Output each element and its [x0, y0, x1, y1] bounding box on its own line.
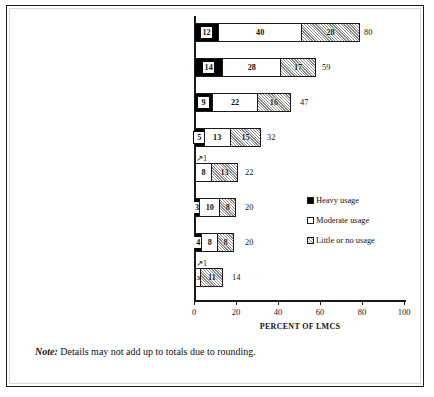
callout-annotation: ↗1: [196, 259, 207, 268]
bar-segment-moderate: 28: [222, 58, 281, 77]
bar-segment-little: 15: [230, 128, 262, 147]
bar-segment-moderate: 8: [195, 163, 212, 182]
segment-value-moderate: 22: [231, 98, 239, 107]
x-axis-tick-label: 80: [358, 307, 367, 317]
stacked-bar: 3 11: [194, 268, 223, 287]
x-axis-tick: [320, 300, 321, 305]
x-axis-tick: [194, 300, 195, 305]
stacked-bar: 3 10 8: [194, 198, 236, 217]
bar-total-label: 59: [322, 58, 330, 77]
bar-segment-moderate: 10: [199, 198, 220, 217]
x-axis-tick: [362, 300, 363, 305]
segment-value-little: 11: [208, 273, 216, 282]
segment-value-heavy: 14: [202, 61, 215, 74]
callout-annotation: ↗1: [196, 154, 207, 163]
bar-segment-little: 13: [211, 163, 238, 182]
bar-total-label: 32: [267, 128, 275, 147]
bar-segment-little: 11: [200, 268, 223, 287]
chart-legend: Heavy usage Moderate usage Little or no …: [307, 196, 375, 256]
x-axis-tick-label: 40: [274, 307, 283, 317]
bar-total-label: 14: [232, 268, 240, 287]
bar-segment-moderate: 22: [212, 93, 258, 112]
segment-value-moderate: 8: [208, 238, 212, 247]
x-axis-line: [194, 300, 406, 302]
segment-value-heavy: 12: [200, 26, 213, 39]
bar-segment-heavy: 12: [194, 23, 219, 42]
segment-value-little: 15: [241, 133, 249, 142]
legend-item-heavy: Heavy usage: [307, 196, 375, 205]
x-axis-tick-label: 100: [398, 307, 411, 317]
figure-note-lead: Note:: [35, 346, 58, 357]
legend-label-moderate: Moderate usage: [316, 216, 369, 225]
bar-segment-little: 8: [219, 198, 236, 217]
stacked-bar: 9 22 16: [194, 93, 291, 112]
segment-value-little: 28: [326, 28, 334, 37]
figure-note-text: Details may not add up to totals due to …: [58, 346, 256, 357]
callout-arrow-icon: ↗: [196, 154, 204, 163]
segment-value-little: 8: [226, 203, 230, 212]
x-axis-tick-label: 0: [192, 307, 196, 317]
segment-value-little: 17: [294, 63, 302, 72]
x-axis-tick: [236, 300, 237, 305]
x-axis-tick-label: 20: [232, 307, 241, 317]
segment-value-moderate: 10: [206, 203, 214, 212]
bar-segment-heavy: 9: [194, 93, 213, 112]
segment-value-little: 16: [270, 98, 278, 107]
x-axis-tick: [278, 300, 279, 305]
bar-segment-heavy: 14: [194, 58, 223, 77]
bar-total-label: 80: [364, 23, 372, 42]
legend-item-moderate: Moderate usage: [307, 216, 375, 225]
figure-frame: 0 20 40 60 80 100 PERCENT OF LMCS Servic…: [6, 5, 424, 387]
bar-segment-little: 16: [257, 93, 291, 112]
bar-total-label: 20: [245, 233, 253, 252]
segment-value-heavy: 9: [197, 96, 210, 109]
stacked-bar: 4 8 8: [194, 233, 234, 252]
bar-total-label: 47: [300, 93, 308, 112]
callout-arrow-icon: ↗: [196, 259, 204, 268]
bar-segment-moderate: 40: [218, 23, 302, 42]
bar-segment-moderate: 8: [201, 233, 218, 252]
bar-total-label: 22: [245, 163, 253, 182]
legend-label-little: Little or no usage: [316, 236, 375, 245]
x-axis-tick-label: 60: [316, 307, 325, 317]
chart-plot-area: 0 20 40 60 80 100 PERCENT OF LMCS Servic…: [7, 6, 425, 388]
stacked-bar: 8 13: [194, 163, 238, 182]
legend-swatch-moderate-icon: [307, 217, 314, 224]
segment-value-moderate: 40: [256, 28, 264, 37]
stacked-bar: 14 28 17: [194, 58, 316, 77]
legend-item-little: Little or no usage: [307, 236, 375, 245]
callout-value: 1: [203, 154, 207, 163]
bar-total-label: 20: [245, 198, 253, 217]
segment-value-little: 13: [220, 168, 228, 177]
stacked-bar: 5 13 15: [194, 128, 261, 147]
legend-label-heavy: Heavy usage: [316, 196, 359, 205]
legend-swatch-little-icon: [307, 237, 314, 244]
x-axis-title: PERCENT OF LMCS: [194, 322, 406, 331]
segment-value-moderate: 28: [248, 63, 256, 72]
stacked-bar: 12 40 28: [194, 23, 360, 42]
bar-segment-little: 28: [301, 23, 360, 42]
bar-segment-little: 8: [217, 233, 234, 252]
figure-note: Note: Details may not add up to totals d…: [35, 346, 256, 357]
callout-value: 1: [203, 259, 207, 268]
segment-value-moderate: 13: [213, 133, 221, 142]
segment-value-little: 8: [224, 238, 228, 247]
x-axis-tick: [404, 300, 405, 305]
segment-value-moderate: 8: [201, 168, 205, 177]
legend-swatch-heavy-icon: [307, 197, 314, 204]
bar-segment-little: 17: [280, 58, 316, 77]
bar-segment-moderate: 13: [204, 128, 231, 147]
